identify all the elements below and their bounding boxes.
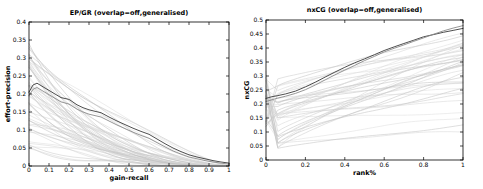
svg-text:gain-recall: gain-recall	[110, 174, 149, 182]
svg-text:0.6: 0.6	[379, 161, 389, 168]
svg-text:0.5: 0.5	[253, 16, 263, 23]
ep-gr-chart-canvas: 00.10.20.30.40.50.60.70.80.9100.050.10.1…	[0, 0, 241, 189]
svg-text:0.4: 0.4	[253, 44, 263, 51]
svg-text:1: 1	[461, 161, 465, 168]
svg-text:0.25: 0.25	[13, 72, 27, 79]
ep-gr-chart: 00.10.20.30.40.50.60.70.80.9100.050.10.1…	[0, 0, 241, 189]
svg-text:0.15: 0.15	[250, 114, 264, 121]
svg-text:0.1: 0.1	[44, 166, 54, 173]
svg-text:0.9: 0.9	[204, 166, 214, 173]
svg-text:0.3: 0.3	[253, 72, 263, 79]
svg-text:0.45: 0.45	[250, 30, 264, 37]
svg-text:0.1: 0.1	[16, 126, 26, 133]
svg-text:0.8: 0.8	[419, 161, 429, 168]
svg-text:0.35: 0.35	[13, 36, 27, 43]
svg-text:0.05: 0.05	[250, 142, 264, 149]
svg-text:0.15: 0.15	[13, 108, 27, 115]
svg-text:0.8: 0.8	[184, 166, 194, 173]
svg-text:0: 0	[27, 166, 31, 173]
svg-text:0.4: 0.4	[104, 166, 114, 173]
svg-text:0.3: 0.3	[84, 166, 94, 173]
svg-text:0.05: 0.05	[13, 144, 27, 151]
evaluation-plots-figure: 00.10.20.30.40.50.60.70.80.9100.050.10.1…	[0, 0, 483, 189]
svg-text:0.4: 0.4	[340, 161, 350, 168]
svg-text:0.2: 0.2	[64, 166, 74, 173]
nxcg-chart: 00.20.40.60.8100.050.10.150.20.250.30.35…	[241, 0, 483, 189]
svg-text:0.5: 0.5	[124, 166, 134, 173]
svg-text:0.2: 0.2	[301, 161, 311, 168]
svg-text:0.35: 0.35	[250, 58, 264, 65]
svg-text:rank%: rank%	[353, 169, 377, 177]
svg-text:0: 0	[264, 161, 268, 168]
svg-text:0.3: 0.3	[16, 54, 26, 61]
svg-text:nxCG (overlap=off,generalised): nxCG (overlap=off,generalised)	[307, 6, 422, 14]
svg-text:0.7: 0.7	[164, 166, 174, 173]
svg-text:0.6: 0.6	[144, 166, 154, 173]
svg-text:0.2: 0.2	[16, 90, 26, 97]
svg-text:0.1: 0.1	[253, 128, 263, 135]
svg-text:effort-precision: effort-precision	[4, 65, 12, 122]
nxcg-chart-canvas: 00.20.40.60.8100.050.10.150.20.250.30.35…	[241, 0, 483, 189]
svg-text:0: 0	[22, 162, 26, 169]
svg-text:0.4: 0.4	[16, 18, 26, 25]
svg-text:nxCG: nxCG	[243, 81, 251, 100]
svg-text:0: 0	[259, 156, 263, 163]
svg-text:0.25: 0.25	[250, 86, 264, 93]
svg-text:EP/GR (overlap=off,generalised: EP/GR (overlap=off,generalised)	[70, 9, 188, 17]
svg-text:1: 1	[227, 166, 231, 173]
svg-text:0.2: 0.2	[253, 100, 263, 107]
